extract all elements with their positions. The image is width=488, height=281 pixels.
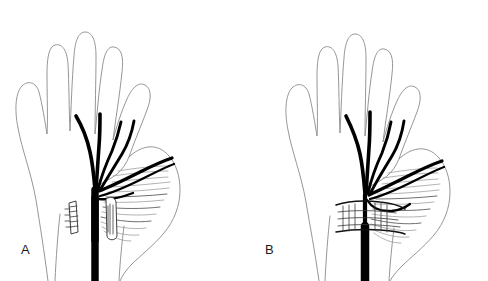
ligament-distal-edge-b <box>336 230 405 234</box>
panel-label-b: B <box>265 243 274 256</box>
figure-root: A <box>0 0 488 281</box>
panel-b: B <box>244 0 488 281</box>
panel-a-illustration <box>0 0 244 281</box>
digital-branch-index-a <box>76 116 95 190</box>
ligament-cut-edge-left-a <box>65 201 78 234</box>
panel-label-a: A <box>21 243 30 256</box>
digital-branch-thumb-a <box>100 121 134 190</box>
transverse-carpal-ligament-cut-a <box>65 197 117 239</box>
median-nerve-a <box>76 114 174 281</box>
wrist-ulnar-line-a <box>55 214 60 281</box>
panel-b-illustration <box>244 0 488 281</box>
wrist-ulnar-line-b <box>325 216 330 281</box>
ligament-cut-edge-right-a <box>106 197 117 239</box>
digital-branch-middle-a <box>96 114 100 190</box>
digital-branch-thumb-b <box>370 121 404 194</box>
digital-branch-index-b <box>346 116 365 194</box>
panel-a: A <box>0 0 244 281</box>
